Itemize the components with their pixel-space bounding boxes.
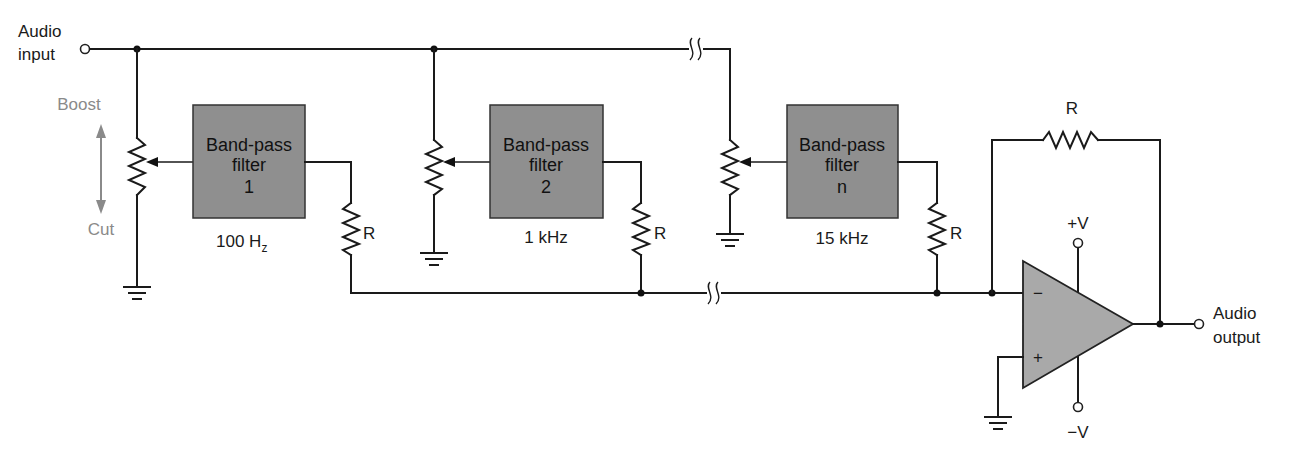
wire-break-icon (708, 282, 711, 304)
band-pass-filter-1: Band-pass filter 1 100 Hz (193, 105, 305, 255)
wiper-arrow-icon (146, 157, 158, 167)
resistor-icon (929, 203, 945, 255)
op-amp: +V −V − + (985, 214, 1195, 442)
summing-resistor-n: R (898, 162, 962, 293)
ground-icon (124, 287, 150, 299)
summing-resistor-1: R (305, 162, 375, 293)
svg-text:Band-pass: Band-pass (799, 135, 885, 155)
cut-label: Cut (88, 220, 115, 239)
filter-1-frequency: 100 Hz (216, 232, 267, 255)
output-label-line2: output (1213, 328, 1261, 347)
junction-dot (638, 290, 645, 297)
resistor-icon (1043, 132, 1098, 148)
arrow-up-icon (96, 124, 106, 138)
summing-bus (351, 282, 1023, 304)
wire-break-icon (690, 38, 693, 60)
filter-n-frequency: 15 kHz (816, 229, 869, 248)
potentiometer-zigzag-icon (129, 138, 145, 195)
input-bus (90, 38, 730, 60)
wiper-arrow-icon (739, 157, 751, 167)
positive-supply-terminal-icon (1074, 239, 1083, 248)
band-pass-filter-2: Band-pass filter 2 1 kHz (490, 105, 603, 247)
filter-2-frequency: 1 kHz (524, 228, 567, 247)
junction-dot (934, 290, 941, 297)
arrow-down-icon (96, 200, 106, 214)
svg-text:1: 1 (244, 177, 254, 197)
potentiometer-zigzag-icon (426, 140, 442, 195)
ground-icon (985, 417, 1011, 429)
resistor-icon (633, 203, 649, 255)
junction-dot (1157, 321, 1164, 328)
input-label-line1: Audio (18, 22, 61, 41)
svg-text:filter: filter (232, 155, 266, 175)
potentiometer-2[interactable] (421, 49, 490, 265)
negative-supply-terminal-icon (1074, 403, 1083, 412)
output-terminal-icon (1195, 320, 1204, 329)
potentiometer-zigzag-icon (722, 140, 738, 195)
ground-icon (717, 234, 743, 246)
svg-text:n: n (837, 177, 847, 197)
svg-text:R: R (654, 224, 666, 243)
positive-supply-label: +V (1067, 214, 1089, 233)
boost-label: Boost (57, 95, 101, 114)
svg-text:R: R (950, 224, 962, 243)
inverting-input-sign: − (1033, 284, 1043, 303)
svg-text:R: R (363, 224, 375, 243)
potentiometer-n[interactable] (717, 49, 787, 246)
svg-text:filter: filter (529, 155, 563, 175)
output-label-line1: Audio (1213, 304, 1256, 323)
svg-text:filter: filter (825, 155, 859, 175)
svg-text:Band-pass: Band-pass (503, 135, 589, 155)
feedback-resistor: R (992, 99, 1160, 324)
ground-icon (421, 253, 447, 265)
input-label-line2: input (18, 45, 55, 64)
negative-supply-label: −V (1067, 423, 1089, 442)
non-inverting-input-sign: + (1033, 348, 1043, 367)
svg-text:Band-pass: Band-pass (206, 135, 292, 155)
equalizer-schematic: Audio input Boost Cut Band-p (0, 0, 1289, 463)
band-pass-filter-n: Band-pass filter n 15 kHz (787, 105, 898, 248)
boost-cut-indicator: Boost Cut (57, 95, 114, 239)
wiper-arrow-icon (443, 157, 455, 167)
resistor-icon (343, 203, 359, 255)
input-terminal-icon (81, 45, 90, 54)
audio-input-terminal: Audio input (18, 22, 90, 64)
summing-resistor-2: R (603, 162, 666, 293)
svg-text:2: 2 (541, 177, 551, 197)
audio-output-terminal: Audio output (1195, 304, 1261, 347)
svg-text:R: R (1066, 99, 1078, 118)
potentiometer-1[interactable] (124, 49, 193, 299)
